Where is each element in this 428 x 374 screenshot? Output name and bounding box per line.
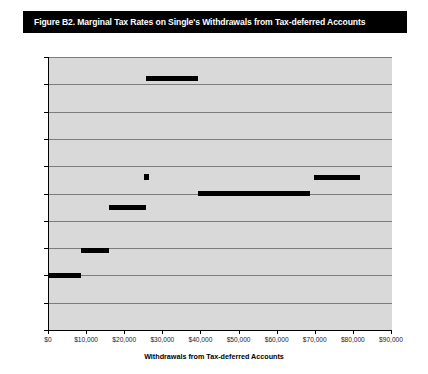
x-tick-mark — [124, 330, 125, 334]
x-tick-mark — [315, 330, 316, 334]
x-tick-label: $60,000 — [265, 336, 289, 343]
y-tick-mark — [44, 248, 48, 249]
x-tick-label: $0 — [44, 336, 51, 343]
data-point-marker — [144, 174, 149, 180]
y-tick-mark — [44, 139, 48, 140]
x-tick-label: $30,000 — [150, 336, 174, 343]
x-tick-label: $20,000 — [112, 336, 136, 343]
x-tick-mark — [277, 330, 278, 334]
y-tick-mark — [44, 303, 48, 304]
y-tick-mark — [44, 275, 48, 276]
plot-area — [48, 57, 392, 331]
y-tick-mark — [44, 84, 48, 85]
data-segment — [314, 175, 360, 180]
x-tick-mark — [353, 330, 354, 334]
y-tick-mark — [44, 112, 48, 113]
data-segment — [198, 191, 310, 196]
x-tick-label: $80,000 — [341, 336, 365, 343]
x-tick-label: $90,000 — [379, 336, 403, 343]
data-segment — [146, 76, 197, 81]
x-tick-mark — [48, 330, 49, 334]
x-axis-title: Withdrawals from Tax-deferred Accounts — [0, 352, 428, 361]
x-tick-mark — [162, 330, 163, 334]
figure-title-banner: Figure B2. Marginal Tax Rates on Single'… — [23, 11, 407, 33]
x-tick-label: $50,000 — [227, 336, 251, 343]
x-tick-mark — [239, 330, 240, 334]
x-tick-mark — [391, 330, 392, 334]
x-tick-mark — [86, 330, 87, 334]
data-series-layer — [49, 57, 392, 330]
y-tick-mark — [44, 166, 48, 167]
data-segment — [109, 205, 146, 210]
x-tick-label: $10,000 — [74, 336, 98, 343]
x-tick-label: $40,000 — [189, 336, 213, 343]
data-segment — [49, 273, 81, 278]
x-tick-label: $70,000 — [303, 336, 327, 343]
y-tick-mark — [44, 194, 48, 195]
data-segment — [81, 248, 109, 253]
figure-title: Figure B2. Marginal Tax Rates on Single'… — [23, 17, 365, 27]
figure-container: Figure B2. Marginal Tax Rates on Single'… — [0, 0, 428, 374]
y-tick-mark — [44, 57, 48, 58]
x-tick-mark — [200, 330, 201, 334]
y-tick-mark — [44, 221, 48, 222]
